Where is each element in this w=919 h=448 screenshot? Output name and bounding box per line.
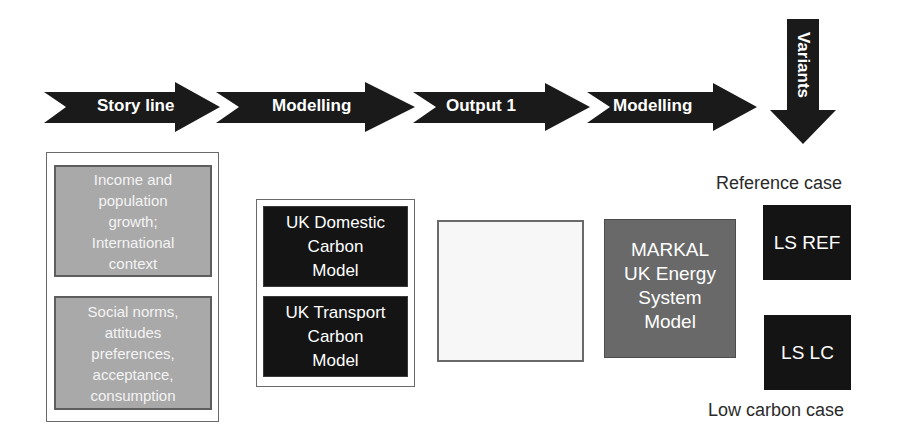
arrow-label-variants: Variants: [793, 30, 813, 100]
arrow-label-output-1: Output 1: [446, 96, 516, 116]
model-box-transport: UK Transport Carbon Model: [263, 296, 408, 377]
storyline-box-income: Income and population growth; Internatio…: [54, 165, 212, 277]
ls-lc-box: LS LC: [764, 315, 851, 390]
model-box-domestic: UK Domestic Carbon Model: [263, 206, 408, 287]
arrow-label-modelling-2: Modelling: [613, 96, 692, 116]
ls-ref-box: LS REF: [763, 205, 851, 280]
arrow-label-story-line: Story line: [97, 96, 174, 116]
arrow-label-modelling-1: Modelling: [272, 96, 351, 116]
low-carbon-case-caption: Low carbon case: [708, 400, 844, 421]
output-1-box: [437, 220, 584, 362]
markal-model-box: MARKAL UK Energy System Model: [604, 219, 736, 358]
storyline-box-social: Social norms, attitudes preferences, acc…: [54, 296, 212, 410]
reference-case-caption: Reference case: [716, 173, 842, 194]
